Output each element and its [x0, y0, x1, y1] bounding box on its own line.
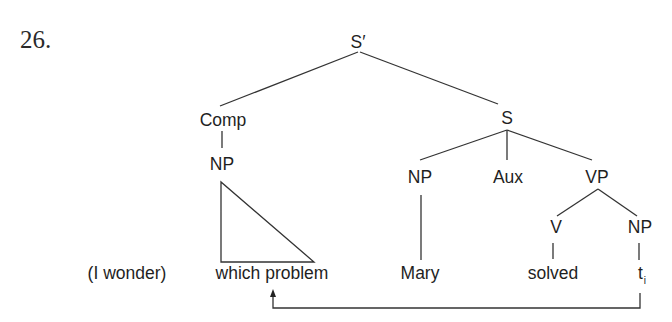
node-aux: Aux: [493, 167, 523, 187]
branch-s-np: [420, 130, 507, 160]
node-comp-np: NP: [210, 154, 234, 174]
node-s: S: [501, 108, 513, 128]
node-v: V: [550, 217, 562, 237]
trace: ti: [638, 263, 646, 286]
node-sbar: S′: [351, 32, 366, 52]
node-comp: Comp: [200, 110, 247, 130]
np-triangle: [221, 182, 314, 262]
arrowhead-icon: [270, 289, 276, 297]
branch-sbar-s: [360, 52, 498, 104]
subject-word: Mary: [401, 263, 440, 283]
node-vp: VP: [585, 167, 608, 187]
node-subject-np: NP: [408, 167, 432, 187]
movement-arrow-line: [273, 293, 640, 308]
branch-sbar-comp: [220, 52, 358, 106]
branch-s-vp: [507, 130, 592, 160]
node-object-np: NP: [628, 217, 652, 237]
wh-phrase: which problem: [216, 263, 329, 283]
prefix-text: (I wonder): [88, 263, 167, 283]
trace-letter: t: [638, 263, 643, 283]
branch-vp-v: [557, 189, 598, 216]
syntax-tree-diagram: 26. S′ Comp NP S NP Aux VP V NP (I wonde…: [0, 0, 672, 322]
branch-vp-np: [598, 189, 637, 216]
verb-word: solved: [528, 263, 579, 283]
trace-index: i: [644, 275, 646, 286]
